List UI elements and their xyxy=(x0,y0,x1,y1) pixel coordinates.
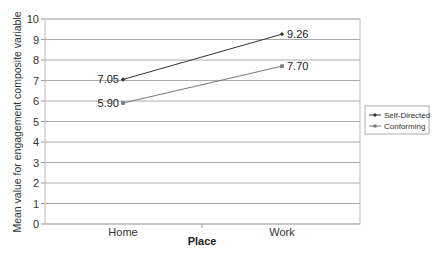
y-tick-label: 10 xyxy=(27,13,39,25)
legend-label: Self-Directed xyxy=(384,111,430,120)
data-point-marker xyxy=(280,64,284,68)
line-chart: 012345678910 HomeWork 7.059.265.907.70 P… xyxy=(0,0,436,258)
y-axis-ticks: 012345678910 xyxy=(27,13,45,230)
legend: Self-DirectedConforming xyxy=(365,106,430,134)
series-line xyxy=(123,66,282,103)
data-point-marker xyxy=(121,77,125,81)
x-tick-label: Work xyxy=(269,226,295,238)
y-tick-label: 8 xyxy=(33,54,39,66)
y-tick-label: 0 xyxy=(33,218,39,230)
series-conforming: 5.907.70 xyxy=(98,60,309,109)
x-tick-label: Home xyxy=(108,226,137,238)
gridlines xyxy=(45,19,360,224)
y-tick-label: 9 xyxy=(33,34,39,46)
y-tick-label: 4 xyxy=(33,136,39,148)
legend-label: Conforming xyxy=(384,122,425,131)
data-label: 7.70 xyxy=(287,60,308,72)
data-label: 9.26 xyxy=(287,28,308,40)
data-label: 7.05 xyxy=(98,73,119,85)
y-tick-label: 2 xyxy=(33,177,39,189)
x-axis-title: Place xyxy=(188,235,217,247)
y-tick-label: 5 xyxy=(33,116,39,128)
y-tick-label: 7 xyxy=(33,75,39,87)
series-line xyxy=(123,34,282,79)
y-tick-label: 1 xyxy=(33,198,39,210)
data-label: 5.90 xyxy=(98,97,119,109)
y-tick-label: 6 xyxy=(33,95,39,107)
legend-marker-icon xyxy=(374,125,377,128)
y-axis-title: Mean value for engagement composite vari… xyxy=(11,11,23,232)
data-point-marker xyxy=(280,32,284,36)
y-tick-label: 3 xyxy=(33,157,39,169)
data-point-marker xyxy=(121,101,125,105)
series-self-directed: 7.059.26 xyxy=(98,28,309,85)
data-series: 7.059.265.907.70 xyxy=(98,28,309,109)
